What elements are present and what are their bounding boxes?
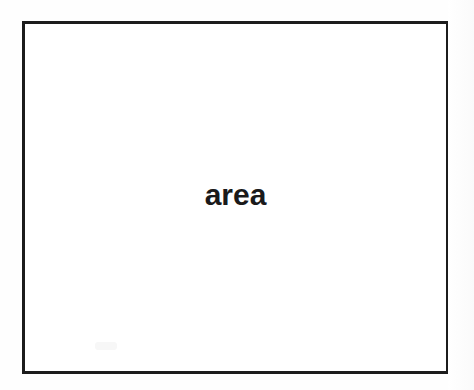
area-label: area (25, 180, 446, 210)
scan-artifact (95, 342, 117, 350)
area-box: area (22, 21, 449, 374)
area-box-canvas: area (25, 24, 446, 371)
scanned-page: area (0, 0, 474, 390)
